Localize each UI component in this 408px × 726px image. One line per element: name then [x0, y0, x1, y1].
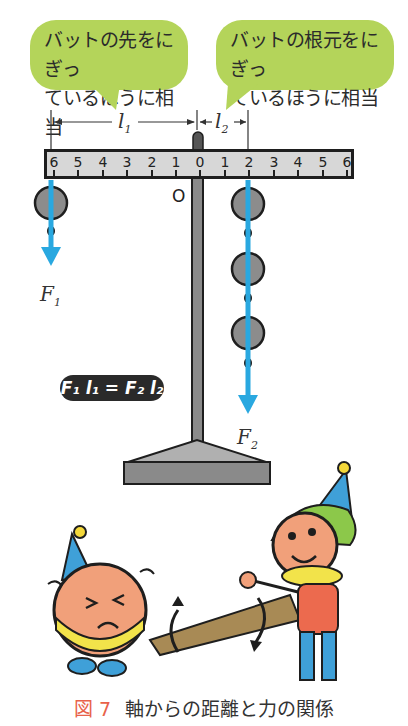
tick-label: 6	[46, 154, 62, 170]
tick-mark	[346, 170, 348, 176]
tick-label: 5	[70, 154, 86, 170]
tick-mark	[126, 170, 128, 176]
l2-dimension-label: l2	[215, 109, 228, 136]
tick-label: 3	[266, 154, 282, 170]
tick-label: 4	[95, 154, 111, 170]
tick-label: 2	[144, 154, 160, 170]
caption-text: 軸からの距離と力の関係	[125, 698, 334, 720]
tick-mark	[322, 170, 324, 176]
lever-ruler: 6 5 4 3 2 1 0 1 2 3 4 5 6	[44, 149, 354, 179]
tick-label: 2	[241, 154, 257, 170]
f2-force-label: F2	[237, 425, 258, 452]
tick-mark	[199, 170, 201, 176]
diagram-graphics	[0, 0, 408, 726]
tick-label: 1	[217, 154, 233, 170]
l1-dimension-label: l1	[118, 109, 131, 136]
tick-mark	[151, 170, 153, 176]
f1-force-label: F1	[40, 282, 61, 309]
tick-mark	[224, 170, 226, 176]
tick-label: 4	[290, 154, 306, 170]
moment-formula: F₁ l₁ = F₂ l₂	[60, 375, 164, 401]
tick-mark	[175, 170, 177, 176]
tick-label: 3	[119, 154, 135, 170]
tick-label: 5	[315, 154, 331, 170]
tick-mark	[53, 170, 55, 176]
figure-caption: 図 7軸からの距離と力の関係	[0, 694, 408, 721]
figure-number: 図 7	[74, 698, 111, 720]
tick-label: 0	[192, 154, 208, 170]
tick-mark	[297, 170, 299, 176]
tick-mark	[102, 170, 104, 176]
tick-label: 6	[339, 154, 355, 170]
tick-mark	[273, 170, 275, 176]
tick-label: 1	[168, 154, 184, 170]
tick-mark	[77, 170, 79, 176]
pivot-label: O	[172, 186, 185, 206]
tick-mark	[248, 170, 250, 176]
